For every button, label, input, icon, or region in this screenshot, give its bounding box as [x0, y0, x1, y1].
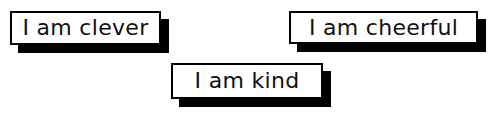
affirmation-card-cheerful: I am cheerful	[289, 11, 478, 44]
affirmation-text: I am cheerful	[309, 17, 458, 39]
affirmation-text: I am clever	[22, 17, 148, 39]
affirmation-card-kind: I am kind	[171, 63, 323, 99]
affirmation-card-clever: I am clever	[10, 11, 161, 45]
affirmation-text: I am kind	[195, 70, 300, 92]
